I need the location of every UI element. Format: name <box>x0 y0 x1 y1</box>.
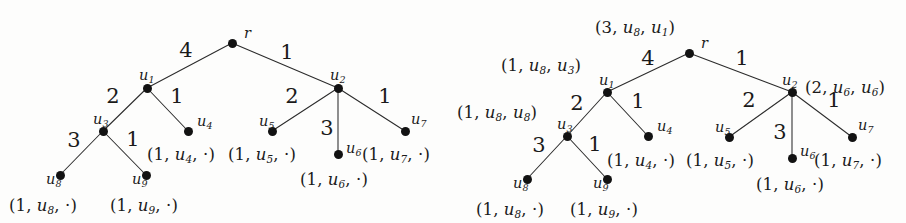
node-label-u3: u3 <box>93 112 109 128</box>
tuple-annotation: (1, u5, ·) <box>686 153 754 170</box>
node-label-u5: u5 <box>259 114 275 130</box>
edge-weight-u3-u9: 1 <box>126 129 139 150</box>
tree-node-u4 <box>644 132 653 141</box>
tree-node-r <box>685 49 694 58</box>
tree-node-u6 <box>788 154 797 163</box>
tuple-annotation: (3, u8, u1) <box>595 20 675 37</box>
node-label-u9: u9 <box>132 172 148 188</box>
tuple-annotation: (1, u4, ·) <box>147 147 215 164</box>
tree-node-u7 <box>848 133 857 142</box>
tuple-annotation: (1, u6, ·) <box>756 177 824 194</box>
edge-weight-u2-u7: 1 <box>378 86 391 107</box>
node-label-u1: u1 <box>139 68 155 84</box>
tuple-annotation: (1, u8, ·) <box>9 198 77 215</box>
tree-edge <box>792 92 852 137</box>
node-label-r: r <box>701 36 708 51</box>
node-label-u9: u9 <box>593 176 609 192</box>
edge-weight-u3-u8: 3 <box>532 135 545 156</box>
edge-weight-u2-u5: 2 <box>285 86 298 107</box>
tree-node-u2 <box>334 84 343 93</box>
tuple-annotation: (1, u8, u8) <box>457 105 537 122</box>
left-tree-panel: ru1u2u3u4u5u6u7u8u9412123131(1, u4, ·)(1… <box>0 0 453 223</box>
tree-node-u6 <box>334 150 343 159</box>
edge-weight-u2-u6: 3 <box>773 122 786 143</box>
edge-weight-u1-u3: 2 <box>106 86 119 107</box>
right-tree-panel: ru1u2u3u4u5u6u7u8u9412123131(3, u8, u1)(… <box>453 0 906 223</box>
tuple-annotation: (1, u8, ·) <box>476 202 544 219</box>
edge-weight-r-u1: 4 <box>179 40 192 61</box>
tuple-annotation: (1, u7, ·) <box>814 153 882 170</box>
tree-node-u1 <box>143 84 152 93</box>
tree-figure: ru1u2u3u4u5u6u7u8u9412123131(1, u4, ·)(1… <box>0 0 906 223</box>
node-label-u4: u4 <box>657 119 673 135</box>
edge-weight-r-u1: 4 <box>641 48 654 69</box>
edge-weight-u1-u4: 1 <box>631 91 644 112</box>
node-label-u2: u2 <box>782 73 798 89</box>
node-label-u2: u2 <box>330 68 346 84</box>
edge-weight-u1-u3: 2 <box>570 93 583 114</box>
tree-node-u7 <box>401 127 410 136</box>
edge-weight-r-u2: 1 <box>735 48 748 69</box>
node-label-u7: u7 <box>858 118 874 134</box>
edge-weight-r-u2: 1 <box>280 42 293 63</box>
tree-edges <box>0 0 453 223</box>
tuple-annotation: (1, u7, ·) <box>362 147 430 164</box>
tuple-annotation: (1, u4, ·) <box>607 153 675 170</box>
node-label-u7: u7 <box>411 112 427 128</box>
tuple-annotation: (1, u9, ·) <box>110 198 178 215</box>
edge-weight-u3-u8: 3 <box>67 130 80 151</box>
edge-weight-u1-u4: 1 <box>170 86 183 107</box>
edge-weight-u2-u6: 3 <box>320 118 333 139</box>
tuple-annotation: (1, u5, ·) <box>228 147 296 164</box>
tree-node-r <box>228 39 237 48</box>
node-label-u6: u6 <box>346 141 362 157</box>
node-label-u8: u8 <box>46 172 62 188</box>
node-label-u4: u4 <box>197 114 213 130</box>
tree-node-u4 <box>184 127 193 136</box>
tuple-annotation: (1, u8, u3) <box>501 58 581 75</box>
node-label-u3: u3 <box>557 117 573 133</box>
node-label-u8: u8 <box>513 176 529 192</box>
edge-weight-u3-u9: 1 <box>588 134 601 155</box>
node-label-r: r <box>244 26 251 41</box>
tuple-annotation: (1, u9, ·) <box>570 202 638 219</box>
node-label-u1: u1 <box>599 73 615 89</box>
tree-edge <box>338 88 405 131</box>
edge-weight-u2-u5: 2 <box>742 90 755 111</box>
tuple-annotation: (1, u6, ·) <box>300 172 368 189</box>
node-label-u5: u5 <box>715 120 731 136</box>
tuple-annotation: (2, u6, u6) <box>805 80 885 97</box>
